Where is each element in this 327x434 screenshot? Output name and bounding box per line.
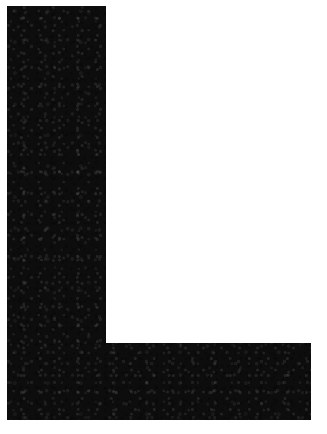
image-canvas: L <box>0 0 327 434</box>
letter-l-glyph <box>0 0 327 434</box>
letter-l-vector <box>0 0 327 434</box>
